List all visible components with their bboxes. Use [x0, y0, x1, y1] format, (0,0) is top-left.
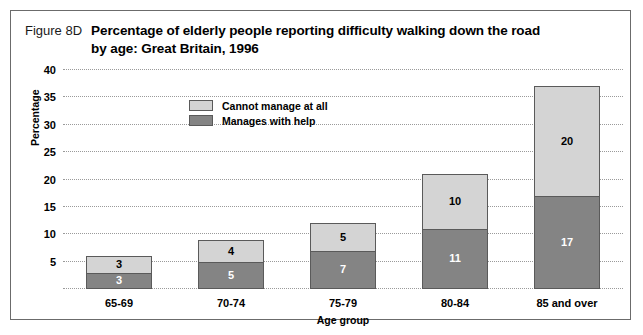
bar-segment-manages-with-help: 3	[86, 273, 152, 289]
bar-segment-cannot-manage: 3	[86, 256, 152, 272]
bar-group: 101180-84	[422, 174, 488, 289]
legend-label: Cannot manage at all	[222, 100, 328, 112]
bar-segment-cannot-manage: 20	[534, 86, 600, 196]
y-axis-tick-label: 15	[44, 201, 56, 213]
y-axis-tick-label: 30	[44, 119, 56, 131]
legend-swatch	[189, 100, 213, 111]
x-axis-tick-label: 70-74	[198, 297, 264, 309]
bar-value-label: 3	[116, 275, 122, 286]
legend-item: Cannot manage at all	[189, 99, 328, 112]
bar-segment-manages-with-help: 17	[534, 196, 600, 289]
y-axis-tick-label: 25	[44, 146, 56, 158]
x-axis-tick-label: 75-79	[310, 297, 376, 309]
bar-value-label: 11	[449, 253, 461, 264]
bar-segment-cannot-manage: 5	[310, 223, 376, 250]
y-axis-tick-label: 5	[50, 256, 56, 268]
bar-group: 201785 and over	[534, 86, 600, 289]
x-axis-tick-label: 65-69	[86, 297, 152, 309]
bar-value-label: 10	[449, 196, 461, 207]
chart-legend: Cannot manage at allManages with help	[189, 99, 328, 129]
bar-value-label: 3	[116, 259, 122, 270]
bar-group: 3365-69	[86, 256, 152, 289]
plot-area: 510152025303540 3365-694570-745775-79101…	[63, 70, 623, 289]
legend-swatch	[189, 115, 213, 126]
bar-value-label: 4	[228, 246, 234, 257]
y-axis-tick-label: 35	[44, 91, 56, 103]
bar-segment-cannot-manage: 4	[198, 240, 264, 262]
y-axis-tick-label: 10	[44, 228, 56, 240]
figure-frame: Figure 8D Percentage of elderly people r…	[10, 10, 631, 320]
bar-group: 5775-79	[310, 223, 376, 289]
bar-segment-manages-with-help: 7	[310, 251, 376, 289]
figure-title: Percentage of elderly people reporting d…	[91, 22, 540, 58]
bar-segment-manages-with-help: 5	[198, 262, 264, 289]
legend-label: Manages with help	[222, 115, 315, 127]
figure-title-block: Figure 8D Percentage of elderly people r…	[25, 22, 625, 58]
bar-value-label: 7	[340, 264, 346, 275]
bar-segment-manages-with-help: 11	[422, 229, 488, 289]
x-axis-tick-label: 85 and over	[534, 297, 600, 309]
y-axis-tick-label: 20	[44, 174, 56, 186]
figure-number: Figure 8D	[25, 22, 82, 38]
figure-title-line-1: Percentage of elderly people reporting d…	[91, 22, 540, 40]
bar-value-label: 17	[561, 237, 573, 248]
legend-item: Manages with help	[189, 114, 328, 127]
y-axis-tick-label: 40	[44, 64, 56, 76]
x-axis-title: Age group	[63, 314, 623, 326]
bar-group: 4570-74	[198, 240, 264, 289]
gridline: 40	[63, 69, 623, 70]
y-axis-title: Percentage	[29, 89, 41, 146]
bar-value-label: 5	[228, 270, 234, 281]
figure-title-line-2: by age: Great Britain, 1996	[91, 40, 540, 58]
bar-value-label: 20	[561, 136, 573, 147]
bar-segment-cannot-manage: 10	[422, 174, 488, 229]
x-axis-tick-label: 80-84	[422, 297, 488, 309]
bar-value-label: 5	[340, 232, 346, 243]
